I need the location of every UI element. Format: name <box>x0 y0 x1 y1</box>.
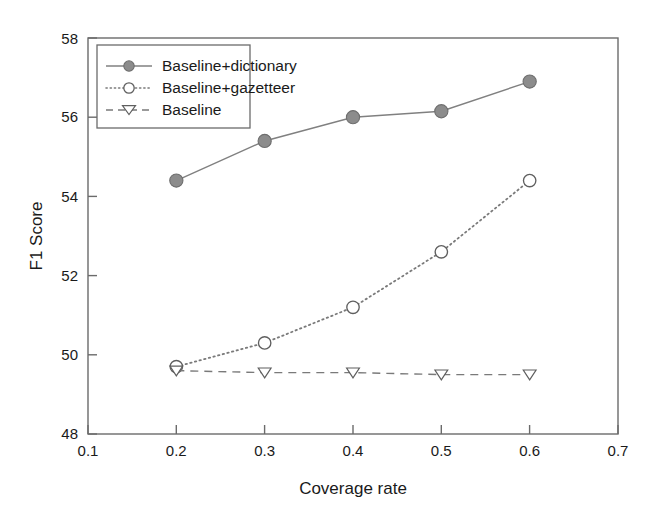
x-axis-tick-labels: 0.1 0.2 0.3 0.4 0.5 0.6 0.7 <box>78 442 629 459</box>
x-tick-label: 0.7 <box>608 442 629 459</box>
data-point-filled-circle-icon <box>435 105 448 118</box>
data-point-open-triangle-down-icon <box>523 370 536 380</box>
y-tick-label: 50 <box>61 346 78 363</box>
x-tick-label: 0.4 <box>343 442 364 459</box>
data-point-filled-circle-icon <box>346 111 359 124</box>
chart-figure: 48 50 52 54 56 58 0.1 0.2 0.3 0.4 0.5 0.… <box>0 0 661 527</box>
open-circle-icon <box>124 83 134 93</box>
legend-label: Baseline+dictionary <box>162 57 297 74</box>
legend-label: Baseline <box>162 101 221 118</box>
x-tick-label: 0.6 <box>519 442 540 459</box>
data-point-open-circle-icon <box>435 246 447 258</box>
data-point-filled-circle-icon <box>258 134 271 147</box>
data-point-filled-circle-icon <box>523 75 536 88</box>
y-tick-label: 52 <box>61 267 78 284</box>
data-point-open-circle-icon <box>347 301 359 313</box>
y-tick-label: 48 <box>61 425 78 442</box>
series-line <box>176 181 529 367</box>
data-point-filled-circle-icon <box>170 174 183 187</box>
data-point-open-circle-icon <box>523 174 535 186</box>
x-tick-label: 0.2 <box>166 442 187 459</box>
series-baseline <box>170 366 536 380</box>
x-tick-label: 0.3 <box>254 442 275 459</box>
data-point-open-circle-icon <box>258 337 270 349</box>
filled-circle-icon <box>124 61 134 71</box>
y-axis-tick-labels: 48 50 52 54 56 58 <box>61 30 78 442</box>
x-axis-ticks <box>88 425 618 434</box>
legend-label: Baseline+gazetteer <box>162 79 295 96</box>
y-axis-ticks <box>88 38 97 434</box>
x-axis-title: Coverage rate <box>299 479 407 498</box>
y-tick-label: 56 <box>61 108 78 125</box>
line-chart-plot: 48 50 52 54 56 58 0.1 0.2 0.3 0.4 0.5 0.… <box>0 0 661 527</box>
legend: Baseline+dictionary Baseline+gazetteer B… <box>97 45 297 128</box>
y-tick-label: 58 <box>61 30 78 47</box>
x-tick-label: 0.5 <box>431 442 452 459</box>
y-tick-label: 54 <box>61 188 78 205</box>
y-axis-title: F1 Score <box>27 202 46 271</box>
x-tick-label: 0.1 <box>78 442 99 459</box>
data-point-open-triangle-down-icon <box>258 368 271 378</box>
series-baseline-gazetteer <box>170 174 536 373</box>
